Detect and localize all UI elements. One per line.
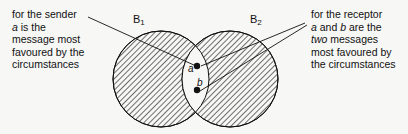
set-b1-label: B1 — [133, 13, 145, 27]
point-a-label: a — [188, 63, 194, 74]
set-b2-label: B2 — [250, 13, 262, 27]
sender-caption: for the sender a is the message most fav… — [12, 8, 84, 71]
point-a-dot — [194, 63, 200, 69]
receptor-caption: for the receptor a and b are the two mes… — [311, 8, 396, 71]
point-b-label: b — [197, 77, 203, 88]
